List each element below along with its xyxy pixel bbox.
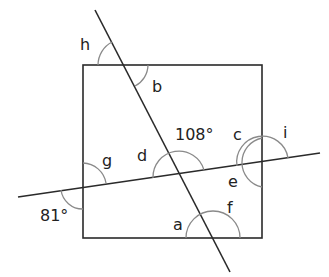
label-108: 108° bbox=[175, 125, 214, 144]
label-a: a bbox=[173, 215, 183, 234]
label-f: f bbox=[227, 198, 233, 217]
label-81: 81° bbox=[40, 206, 68, 225]
angle-diagram: h b g d 108° c i e 81° a f bbox=[0, 0, 329, 277]
label-i: i bbox=[283, 123, 287, 142]
label-c: c bbox=[233, 125, 242, 144]
label-h: h bbox=[80, 35, 90, 54]
angle-arc-h bbox=[98, 42, 112, 65]
label-e: e bbox=[228, 172, 238, 191]
label-d: d bbox=[137, 146, 147, 165]
label-g: g bbox=[102, 151, 112, 170]
label-b: b bbox=[152, 77, 162, 96]
angle-arc-b bbox=[135, 65, 148, 86]
transversal-line bbox=[18, 153, 320, 197]
